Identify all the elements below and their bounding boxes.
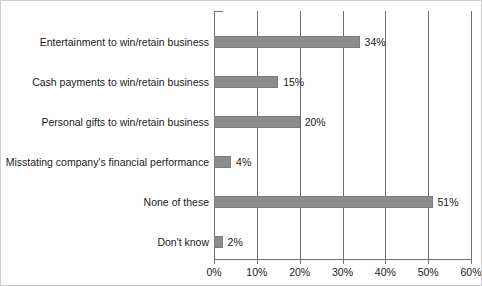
bar-value-label: 34% bbox=[365, 37, 386, 48]
x-tick-label: 30% bbox=[332, 267, 353, 278]
plot-area: Entertainment to win/retain business 34%… bbox=[214, 11, 471, 259]
bar-value-label: 15% bbox=[283, 77, 304, 88]
bar-rect bbox=[214, 156, 231, 168]
x-tick-label: 10% bbox=[246, 267, 267, 278]
bar-value-label: 51% bbox=[438, 197, 459, 208]
bar-row: Cash payments to win/retain business 15% bbox=[214, 73, 471, 91]
bar-value-label: 2% bbox=[228, 237, 243, 248]
bar-row: Entertainment to win/retain business 34% bbox=[214, 33, 471, 51]
x-tick-label: 60% bbox=[460, 267, 481, 278]
bar-row: Personal gifts to win/retain business 20… bbox=[214, 113, 471, 131]
x-tick-mark bbox=[214, 259, 215, 264]
bar-row: None of these 51% bbox=[214, 193, 471, 211]
x-tick-label: 0% bbox=[206, 267, 221, 278]
x-tick-label: 40% bbox=[375, 267, 396, 278]
bar-row: Misstating company's financial performan… bbox=[214, 153, 471, 171]
x-tick-mark bbox=[300, 259, 301, 264]
category-label: None of these bbox=[144, 197, 209, 208]
bar-rect bbox=[214, 36, 360, 48]
axis-top-cap bbox=[214, 11, 223, 12]
bar-rect bbox=[214, 196, 433, 208]
bar-value-label: 20% bbox=[305, 117, 326, 128]
x-tick-label: 50% bbox=[418, 267, 439, 278]
bar-row: Don't know 2% bbox=[214, 233, 471, 251]
x-tick-label: 20% bbox=[289, 267, 310, 278]
category-label: Misstating company's financial performan… bbox=[6, 157, 209, 168]
x-tick-mark bbox=[343, 259, 344, 264]
x-tick-mark bbox=[428, 259, 429, 264]
bar-value-label: 4% bbox=[236, 157, 251, 168]
x-tick-mark bbox=[257, 259, 258, 264]
x-tick-mark bbox=[385, 259, 386, 264]
gridline-60 bbox=[471, 11, 472, 259]
category-label: Entertainment to win/retain business bbox=[40, 37, 209, 48]
bar-rect bbox=[214, 116, 300, 128]
category-label: Cash payments to win/retain business bbox=[32, 77, 209, 88]
bar-rect bbox=[214, 76, 278, 88]
bar-rect bbox=[214, 236, 223, 248]
x-tick-mark bbox=[471, 259, 472, 264]
bar-chart-figure: Entertainment to win/retain business 34%… bbox=[0, 0, 482, 286]
category-label: Don't know bbox=[157, 237, 209, 248]
category-label: Personal gifts to win/retain business bbox=[41, 117, 209, 128]
